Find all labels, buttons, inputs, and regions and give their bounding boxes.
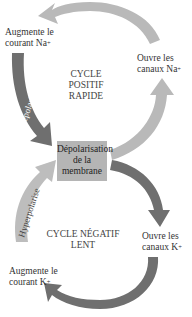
step-open-k-channels: Ouvre les canaux K+ — [142, 231, 182, 253]
negative-cycle-title: CYCLE NÉGATIF LENT — [46, 229, 120, 251]
step-increase-k-current: Augmente le courant K+ — [9, 266, 58, 288]
step-line: Augmente le — [5, 27, 54, 38]
positive-cycle-title: CYCLE POSITIF RAPIDE — [52, 69, 120, 102]
step-line: canaux K — [142, 242, 178, 252]
step-line: Ouvre les — [142, 231, 182, 242]
step-line: Augmente le — [9, 266, 58, 277]
superscript: + — [47, 278, 51, 285]
step-line: canaux Na — [137, 64, 177, 74]
membrane-depolarization-box: Dépolarisation de la membrane — [57, 141, 107, 181]
center-line: de la — [57, 155, 107, 166]
title-line: RAPIDE — [52, 91, 120, 102]
title-line: CYCLE POSITIF — [52, 69, 120, 91]
superscript: + — [47, 39, 51, 46]
step-increase-na-current: Augmente le courant Na+ — [5, 27, 54, 49]
superscript: + — [178, 243, 182, 250]
step-open-na-channels: Ouvre les canaux Na+ — [137, 53, 181, 75]
title-line: CYCLE NÉGATIF — [46, 229, 120, 240]
step-line: courant K — [9, 277, 47, 287]
superscript: + — [177, 65, 181, 72]
title-line: LENT — [46, 240, 120, 251]
arrow-top-arc — [38, 2, 160, 44]
center-line: membrane — [57, 166, 107, 177]
step-line: Ouvre les — [137, 53, 181, 64]
step-line: courant Na — [5, 38, 47, 48]
arrow-bottom-right-down — [110, 160, 170, 227]
center-line: Dépolarisation — [57, 144, 107, 155]
arrow-bottom-arc — [44, 257, 158, 309]
